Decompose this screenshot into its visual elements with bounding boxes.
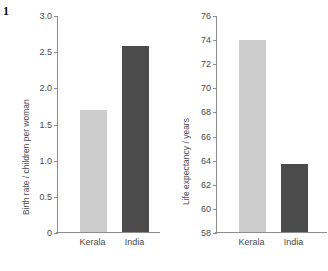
- x-axis-category-label-india: India: [268, 238, 319, 247]
- y-axis-tick: [213, 185, 217, 186]
- y-axis-tick-label: 1.0: [39, 156, 52, 165]
- figure-container: 1 00.51.01.52.02.53.0 Birth rate / child…: [0, 0, 328, 271]
- y-axis-tick: [54, 233, 58, 234]
- y-axis-tick: [213, 137, 217, 138]
- y-axis-tick-label: 58: [201, 229, 211, 238]
- x-axis-line-birth-rate: [56, 232, 160, 233]
- y-axis-tick-label: 64: [201, 156, 211, 165]
- y-axis-tick: [54, 16, 58, 17]
- plot-area-birth-rate: 00.51.01.52.02.53.0: [57, 16, 157, 233]
- y-axis-tick-label: 3.0: [39, 12, 52, 21]
- y-axis-tick-label: 70: [201, 84, 211, 93]
- y-axis-tick-label: 60: [201, 204, 211, 213]
- y-axis-tick: [213, 161, 217, 162]
- y-axis-tick: [213, 64, 217, 65]
- y-axis-tick: [54, 52, 58, 53]
- y-axis-tick: [213, 233, 217, 234]
- x-axis-line-stub: [215, 232, 327, 233]
- y-axis-tick: [213, 88, 217, 89]
- bar-india: [122, 46, 149, 233]
- y-axis-tick-label: 74: [201, 36, 211, 45]
- y-axis-title-life-expectancy: Life expectancy / years: [182, 118, 191, 205]
- y-axis-tick-label: 0: [47, 229, 52, 238]
- bar-india: [281, 164, 308, 233]
- y-axis-tick: [54, 125, 58, 126]
- y-axis-title-birth-rate: Birth rate / children per woman: [22, 99, 31, 215]
- y-axis-tick: [213, 16, 217, 17]
- y-axis-tick: [213, 209, 217, 210]
- y-axis-tick: [54, 197, 58, 198]
- bar-kerala: [80, 110, 107, 233]
- y-axis-tick-label: 76: [201, 12, 211, 21]
- y-axis-tick-label: 2.5: [39, 48, 52, 57]
- y-axis-tick-label: 66: [201, 132, 211, 141]
- y-axis-tick-label: 0.5: [39, 192, 52, 201]
- y-axis-tick: [213, 112, 217, 113]
- y-axis-tick-label: 62: [201, 180, 211, 189]
- y-axis-tick: [54, 88, 58, 89]
- y-axis-tick-label: 2.0: [39, 84, 52, 93]
- chart-panel-birth-rate: 00.51.01.52.02.53.0 Birth rate / childre…: [0, 0, 164, 271]
- x-axis-category-label-india: India: [109, 238, 160, 247]
- y-axis-tick-label: 68: [201, 108, 211, 117]
- y-axis-tick: [54, 161, 58, 162]
- plot-area-life-expectancy: 58606264666870727476: [216, 16, 316, 233]
- chart-panel-life-expectancy: 58606264666870727476 Life expectancy / y…: [164, 0, 328, 271]
- y-axis-tick-label: 72: [201, 60, 211, 69]
- y-axis-tick: [213, 40, 217, 41]
- y-axis-tick-label: 1.5: [39, 120, 52, 129]
- bar-kerala: [239, 40, 266, 233]
